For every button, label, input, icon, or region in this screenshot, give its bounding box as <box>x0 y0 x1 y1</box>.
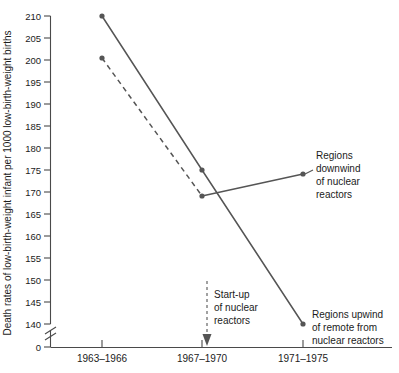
y-axis-title: Death rates of low-birth-weight infant p… <box>2 30 13 335</box>
line-chart: Death rates of low-birth-weight infant p… <box>0 0 399 373</box>
downwind-annotation-line-3: of nuclear <box>316 176 361 187</box>
y-tick-label-165: 165 <box>25 209 41 220</box>
upwind-annotation-line-3: nuclear reactors <box>312 335 384 346</box>
downwind-annotation-line-1: Regions <box>316 150 353 161</box>
series-downwind-dashed-segment <box>102 58 202 196</box>
y-tick-label-195: 195 <box>25 77 41 88</box>
upwind-annotation-line-1: Regions upwind <box>312 309 383 320</box>
y-tick-label-145: 145 <box>25 297 41 308</box>
downwind-annotation-line-2: downwind <box>316 163 360 174</box>
y-axis-ticks <box>44 16 51 347</box>
upwind-annotation-line-2: of remote from <box>312 322 377 333</box>
y-tick-label-160: 160 <box>25 231 41 242</box>
y-tick-label-185: 185 <box>25 121 41 132</box>
y-tick-label-175: 175 <box>25 165 41 176</box>
y-tick-label-180: 180 <box>25 143 41 154</box>
x-tick-label-1967-1970: 1967–1970 <box>177 353 227 364</box>
data-point-downwind-1967 <box>199 193 204 198</box>
y-tick-label-205: 205 <box>25 33 41 44</box>
data-point-upwind-1967 <box>199 167 204 172</box>
x-axis-ticks <box>102 340 303 348</box>
data-point-upwind-1971 <box>300 321 305 326</box>
y-tick-label-200: 200 <box>25 55 41 66</box>
data-point-upwind-1963 <box>99 13 104 18</box>
y-tick-label-170: 170 <box>25 187 41 198</box>
series-downwind-solid-segment <box>202 174 303 196</box>
chart-container: Death rates of low-birth-weight infant p… <box>0 0 399 373</box>
startup-annotation-line-3: reactors <box>214 315 250 326</box>
startup-annotation-line-2: of nuclear <box>214 302 259 313</box>
data-point-downwind-1971 <box>300 171 305 176</box>
startup-annotation-line-1: Start-up <box>214 289 250 300</box>
y-tick-label-155: 155 <box>25 253 41 264</box>
y-tick-label-210: 210 <box>25 11 41 22</box>
data-point-downwind-1963 <box>99 55 104 60</box>
x-tick-label-1963-1966: 1963–1966 <box>77 353 127 364</box>
downwind-leader-line <box>305 170 313 174</box>
y-tick-label-zero: 0 <box>36 342 41 353</box>
y-tick-label-140: 140 <box>25 319 41 330</box>
downwind-annotation-line-4: reactors <box>316 189 352 200</box>
y-tick-label-190: 190 <box>25 99 41 110</box>
y-tick-label-150: 150 <box>25 275 41 286</box>
x-tick-label-1971-1975: 1971–1975 <box>278 353 328 364</box>
startup-arrow-icon <box>203 334 212 346</box>
